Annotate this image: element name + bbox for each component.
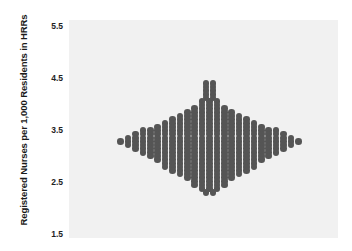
data-point [191,182,198,189]
data-point [295,138,302,145]
y-tick-label: 4.5 [23,73,63,83]
data-point [251,164,258,171]
data-point [132,145,139,152]
data-point [258,156,265,163]
y-tick-label: 5.5 [23,21,63,31]
plot-area [69,20,338,238]
y-tick-label: 2.5 [23,177,63,187]
data-point [265,153,272,160]
y-tick-label: 3.5 [23,125,63,135]
data-point [221,182,228,189]
data-point [147,153,154,160]
data-point [117,138,124,145]
data-point [236,171,243,178]
data-point [288,142,295,149]
data-point [228,174,235,181]
data-point [243,167,250,174]
data-point [184,174,191,181]
data-point [140,149,147,156]
data-point [203,189,210,196]
data-point [177,171,184,178]
data-point [280,145,287,152]
data-point [210,189,217,196]
data-point [273,149,280,156]
data-point [125,142,132,149]
y-axis-tick-labels: 5.54.53.52.51.5 [0,0,68,251]
chart-figure: Registered Nurses per 1,000 Residents in… [0,0,352,251]
data-point [162,164,169,171]
data-point [169,167,176,174]
data-point [154,156,161,163]
y-tick-label: 1.5 [23,229,63,239]
